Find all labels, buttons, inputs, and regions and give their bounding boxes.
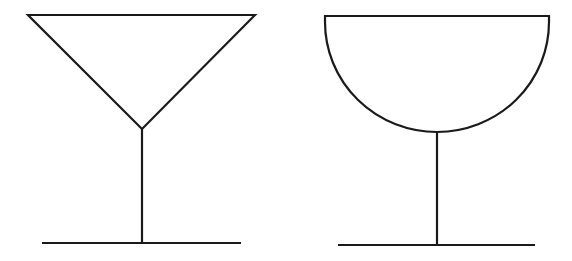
conical-glass xyxy=(28,15,255,243)
conical-bowl xyxy=(28,15,255,129)
hemispherical-glass xyxy=(325,16,549,245)
hemispherical-bowl xyxy=(325,16,549,132)
glasses-diagram xyxy=(0,0,572,261)
